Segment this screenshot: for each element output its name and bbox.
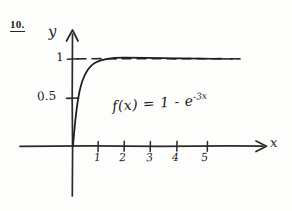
equation-exponent: -3x [193, 91, 208, 102]
y-axis-label: y [47, 24, 57, 40]
handwritten-graph-page: 10. y x 1 0.5 1 2 3 4 5 f(x) = 1 - e-3x [0, 0, 292, 211]
x-tick-label-5: 5 [200, 152, 208, 164]
y-tick-label-1: 1 [56, 51, 64, 63]
x-tick-label-2: 2 [119, 152, 127, 163]
x-tick-label-1: 1 [94, 152, 102, 164]
x-axis-label: x [270, 136, 278, 149]
x-tick-label-3: 3 [145, 152, 153, 164]
x-axis-line [20, 146, 263, 147]
problem-number: 10. [10, 19, 25, 32]
y-tick-label-0-5: 0.5 [37, 90, 57, 103]
x-tick-label-4: 4 [172, 152, 179, 163]
